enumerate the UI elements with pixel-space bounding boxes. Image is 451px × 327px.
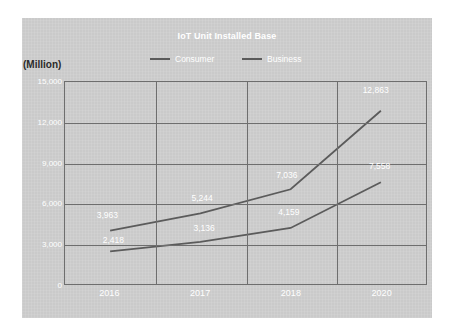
chart-figure: IoT Unit Installed Base (Million) Consum… bbox=[0, 0, 451, 327]
data-point-label: 7,036 bbox=[276, 170, 297, 180]
gridline-vertical bbox=[337, 82, 338, 284]
x-axis-tick-label: 2020 bbox=[352, 288, 412, 298]
data-point-label: 3,963 bbox=[97, 210, 118, 220]
data-point-label: 7,558 bbox=[369, 161, 390, 171]
data-point-label: 12,863 bbox=[363, 85, 389, 95]
x-axis-tick-label: 2016 bbox=[79, 288, 139, 298]
gridline-horizontal bbox=[65, 204, 426, 205]
y-axis-tick-label: 12,000 bbox=[16, 117, 62, 126]
data-point-label: 2,418 bbox=[103, 235, 124, 245]
gridline-vertical bbox=[156, 82, 157, 284]
data-point-label: 5,244 bbox=[191, 193, 212, 203]
line-business bbox=[110, 182, 381, 251]
data-point-label: 3,136 bbox=[193, 223, 214, 233]
gridline-horizontal bbox=[65, 123, 426, 124]
data-point-label: 4,159 bbox=[278, 207, 299, 217]
legend-line-swatch-consumer bbox=[150, 58, 170, 60]
y-axis-unit-label: (Million) bbox=[23, 59, 61, 70]
x-axis-tick-label: 2017 bbox=[170, 288, 230, 298]
line-consumer bbox=[110, 111, 381, 231]
y-axis-tick-label: 15,000 bbox=[16, 77, 62, 86]
x-axis-tick-labels: 2016201720182020 bbox=[64, 288, 427, 304]
gridline-horizontal bbox=[65, 245, 426, 246]
y-axis-tick-label: 9,000 bbox=[16, 158, 62, 167]
legend-label-business: Business bbox=[267, 54, 302, 64]
legend-label-consumer: Consumer bbox=[175, 54, 214, 64]
y-axis-tick-labels: 15,00012,0009,0006,0003,0000 bbox=[22, 81, 62, 285]
page-title: IoT Unit Installed Base bbox=[22, 31, 432, 41]
x-axis-tick-label: 2018 bbox=[261, 288, 321, 298]
legend-line-swatch-business bbox=[242, 58, 262, 60]
chart-legend: Consumer Business bbox=[142, 54, 332, 68]
chart-panel: IoT Unit Installed Base (Million) Consum… bbox=[22, 18, 432, 318]
y-axis-tick-label: 0 bbox=[16, 281, 62, 290]
series-lines bbox=[65, 82, 426, 284]
legend-item-business: Business bbox=[242, 54, 302, 64]
y-axis-tick-label: 6,000 bbox=[16, 199, 62, 208]
plot-area bbox=[64, 81, 427, 285]
legend-item-consumer: Consumer bbox=[150, 54, 214, 64]
y-axis-tick-label: 3,000 bbox=[16, 240, 62, 249]
gridline-vertical bbox=[247, 82, 248, 284]
